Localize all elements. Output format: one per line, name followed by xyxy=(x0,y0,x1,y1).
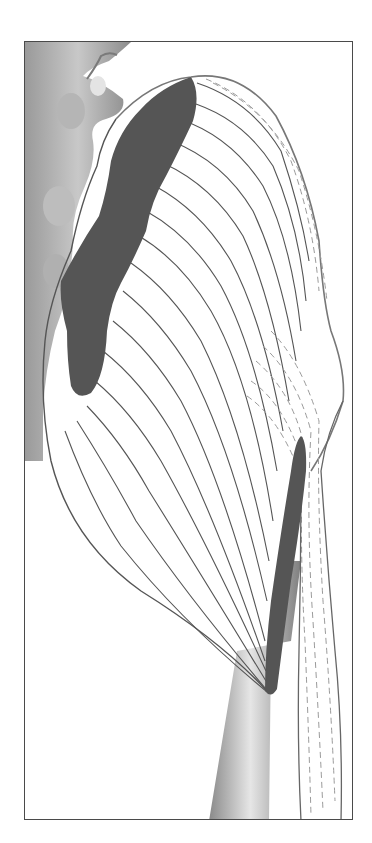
figure-frame xyxy=(24,41,353,820)
figure-caption xyxy=(0,834,372,843)
iliotibial-tract xyxy=(206,79,335,816)
muscle-illustration xyxy=(25,42,353,820)
